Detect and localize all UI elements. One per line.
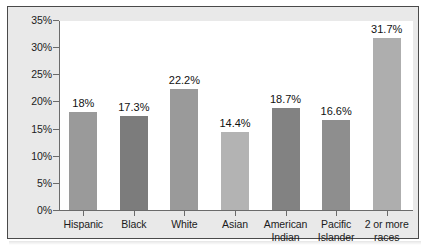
category-label-line: Hispanic — [64, 218, 103, 230]
category-label-line: Asian — [222, 218, 248, 230]
x-axis-tick — [286, 211, 287, 216]
y-axis-tick — [53, 20, 59, 21]
x-axis-tick — [336, 211, 337, 216]
bar — [170, 89, 198, 210]
bar-value-label: 17.3% — [104, 102, 164, 113]
bar — [373, 38, 401, 210]
category-label-line: races — [356, 231, 418, 244]
chart-frame: 0%5%10%15%20%25%30%35% 18%17.3%22.2%14.4… — [7, 6, 419, 239]
y-axis-line — [59, 21, 60, 211]
category-label-line: Black — [121, 218, 146, 230]
y-axis-tick — [53, 210, 59, 211]
y-axis-tick-label: 15% — [8, 123, 52, 134]
x-axis-line — [59, 210, 413, 211]
y-axis-tick — [53, 183, 59, 184]
y-axis-tick — [53, 156, 59, 157]
y-axis-tick-label: 5% — [8, 178, 52, 189]
bar — [272, 108, 300, 210]
bar — [322, 120, 350, 210]
category-label: 2 or moreraces — [356, 218, 418, 243]
x-axis-tick — [134, 211, 135, 216]
x-axis-tick — [83, 211, 84, 216]
bar — [221, 132, 249, 210]
bar-chart-figure: 0%5%10%15%20%25%30%35% 18%17.3%22.2%14.4… — [0, 0, 426, 251]
bar-value-label: 14.4% — [205, 118, 265, 129]
y-axis-tick-label: 25% — [8, 69, 52, 80]
bar-value-label: 16.6% — [306, 106, 366, 117]
y-axis-tick — [53, 74, 59, 75]
y-axis-tick-label: 0% — [8, 205, 52, 216]
x-axis-tick — [235, 211, 236, 216]
y-axis-tick — [53, 47, 59, 48]
category-label-line: Pacific — [321, 218, 351, 230]
x-axis-tick — [184, 211, 185, 216]
category-label-line: American — [264, 218, 308, 230]
x-axis-tick — [387, 211, 388, 216]
category-label-line: 2 or more — [365, 218, 409, 230]
category-label-line: White — [171, 218, 197, 230]
y-axis-tick-label: 35% — [8, 15, 52, 26]
bar — [69, 112, 97, 210]
y-axis-tick-label: 20% — [8, 96, 52, 107]
y-axis-tick — [53, 129, 59, 130]
y-axis-tick-label: 30% — [8, 42, 52, 53]
bar — [120, 116, 148, 210]
bar-value-label: 18.7% — [256, 94, 316, 105]
y-axis-tick-label: 10% — [8, 150, 52, 161]
bar-value-label: 31.7% — [357, 24, 417, 35]
bar-value-label: 22.2% — [154, 75, 214, 86]
